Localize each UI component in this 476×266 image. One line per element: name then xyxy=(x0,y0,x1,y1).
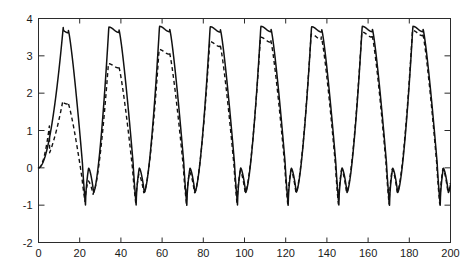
x-axis-tick-labels: 020406080100120140160180200 xyxy=(35,247,459,259)
y-axis-ticks xyxy=(39,19,451,243)
y-axis-tick-labels: -2-101234 xyxy=(23,13,33,249)
line-chart: 020406080100120140160180200 -2-101234 xyxy=(0,0,476,266)
series-solid-line xyxy=(39,26,451,205)
x-tick-label: 20 xyxy=(74,247,86,259)
y-tick-label: 0 xyxy=(26,162,32,174)
series-dashed-line xyxy=(39,30,451,204)
x-tick-label: 100 xyxy=(235,247,253,259)
y-tick-label: 2 xyxy=(26,87,32,99)
x-tick-label: 180 xyxy=(400,247,418,259)
x-tick-label: 140 xyxy=(318,247,336,259)
plot-frame xyxy=(39,19,451,243)
y-tick-label: -1 xyxy=(23,199,33,211)
x-tick-label: 160 xyxy=(359,247,377,259)
y-tick-label: 3 xyxy=(26,50,32,62)
x-tick-label: 60 xyxy=(156,247,168,259)
y-tick-label: 4 xyxy=(26,13,32,25)
x-tick-label: 0 xyxy=(35,247,41,259)
x-tick-label: 40 xyxy=(115,247,127,259)
x-tick-label: 120 xyxy=(277,247,295,259)
chart-figure: 020406080100120140160180200 -2-101234 xyxy=(0,0,476,266)
x-tick-label: 80 xyxy=(197,247,209,259)
y-tick-label: -2 xyxy=(23,237,33,249)
x-tick-label: 200 xyxy=(441,247,459,259)
x-axis-ticks xyxy=(39,19,451,243)
y-tick-label: 1 xyxy=(26,125,32,137)
